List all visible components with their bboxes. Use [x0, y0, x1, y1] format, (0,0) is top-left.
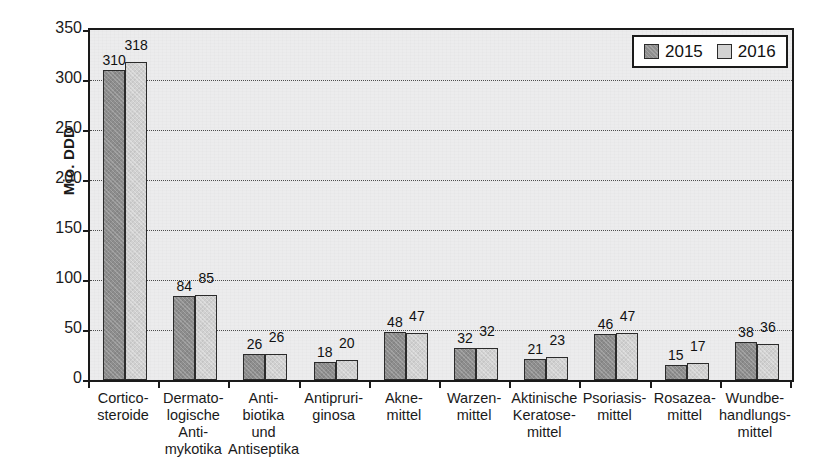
y-axis-tick: [83, 130, 90, 132]
y-axis-tick: [83, 330, 90, 332]
y-axis-tick: [83, 80, 90, 82]
bar-2015-7[interactable]: [594, 334, 616, 380]
bar-2016-5[interactable]: [476, 348, 498, 380]
y-axis-tick-label: 0: [36, 369, 82, 387]
bar-2016-3[interactable]: [336, 360, 358, 380]
bar-group: 310318: [90, 30, 160, 380]
bar-2015-6[interactable]: [524, 359, 546, 380]
bar-2015-8[interactable]: [665, 365, 687, 380]
bar-2015-1[interactable]: [173, 296, 195, 380]
dark-gray-swatch-icon: [644, 44, 659, 59]
x-axis-tick: [650, 380, 652, 388]
x-axis-category-label: Wundbe- handlungs- mittel: [711, 390, 799, 441]
bar-group: 4647: [581, 30, 651, 380]
bar-2015-0[interactable]: [103, 70, 125, 380]
chart-legend: 2015 2016: [632, 35, 788, 68]
bar-value-label: 32: [472, 323, 502, 339]
bar-group: 3232: [441, 30, 511, 380]
bar-2016-8[interactable]: [687, 363, 709, 380]
x-axis-tick: [720, 380, 722, 388]
bar-2015-4[interactable]: [384, 332, 406, 380]
x-axis-tick: [579, 380, 581, 388]
x-axis-tick: [158, 380, 160, 388]
y-axis-tick: [83, 180, 90, 182]
bar-group: 2123: [511, 30, 581, 380]
y-axis-tick-label: 150: [36, 219, 82, 237]
y-axis-tick-label: 50: [36, 319, 82, 337]
plot-area: 3103188485262618204847323221234647151738…: [88, 28, 794, 382]
legend-label-2015: 2015: [665, 42, 703, 62]
bar-2015-3[interactable]: [314, 362, 336, 380]
bar-group: 8485: [160, 30, 230, 380]
bar-2016-1[interactable]: [195, 295, 217, 380]
y-axis-tick-label: 250: [36, 119, 82, 137]
bar-2016-6[interactable]: [546, 357, 568, 380]
bar-2016-7[interactable]: [616, 333, 638, 380]
bar-2016-0[interactable]: [125, 62, 147, 380]
x-axis-tick: [228, 380, 230, 388]
bar-group: 1820: [301, 30, 371, 380]
legend-item-2015: 2015: [644, 42, 703, 62]
legend-item-2016: 2016: [717, 42, 776, 62]
bar-group: 1517: [652, 30, 722, 380]
bar-value-label: 20: [332, 335, 362, 351]
legend-label-2016: 2016: [738, 42, 776, 62]
x-axis-tick: [790, 380, 792, 388]
bar-2016-9[interactable]: [757, 344, 779, 380]
y-axis-tick: [83, 230, 90, 232]
x-axis-tick: [369, 380, 371, 388]
bar-value-label: 85: [191, 270, 221, 286]
bar-2015-9[interactable]: [735, 342, 757, 380]
bar-group: 3836: [722, 30, 792, 380]
chart-figure: Mio. DDD 050100150200250300350 310318848…: [0, 0, 816, 472]
y-axis-tick-labels: 050100150200250300350: [30, 28, 82, 378]
bar-2015-2[interactable]: [243, 354, 265, 380]
y-axis-tick: [83, 30, 90, 32]
x-axis-tick: [509, 380, 511, 388]
bar-value-label: 17: [683, 338, 713, 354]
x-axis-tick: [299, 380, 301, 388]
bar-value-label: 36: [753, 319, 783, 335]
bar-value-label: 318: [121, 37, 151, 53]
x-axis-tick: [439, 380, 441, 388]
bar-2016-4[interactable]: [406, 333, 428, 380]
bar-group: 2626: [230, 30, 300, 380]
y-axis-tick-label: 300: [36, 69, 82, 87]
bar-value-label: 47: [612, 308, 642, 324]
light-gray-swatch-icon: [717, 44, 732, 59]
bar-value-label: 47: [402, 308, 432, 324]
x-axis-tick: [88, 380, 90, 388]
bar-group: 4847: [371, 30, 441, 380]
bar-2016-2[interactable]: [265, 354, 287, 380]
y-axis-tick-label: 350: [36, 19, 82, 37]
bar-value-label: 26: [261, 329, 291, 345]
bar-2015-5[interactable]: [454, 348, 476, 380]
y-axis-tick: [83, 280, 90, 282]
bar-value-label: 23: [542, 332, 572, 348]
y-axis-tick-label: 200: [36, 169, 82, 187]
y-axis-tick-label: 100: [36, 269, 82, 287]
